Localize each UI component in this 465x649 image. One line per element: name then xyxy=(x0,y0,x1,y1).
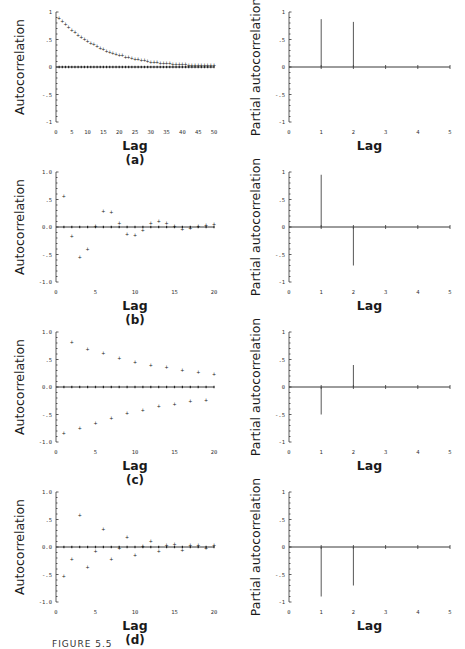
y-tick-label: 1 xyxy=(282,169,285,175)
data-point: + xyxy=(173,400,177,407)
y-axis-label: Partial autocorrelation xyxy=(248,318,263,456)
y-tick-label: .5 xyxy=(45,517,52,523)
data-point: + xyxy=(78,253,82,260)
y-tick-label: -1.0 xyxy=(39,279,52,285)
x-tick-label: 15 xyxy=(171,609,178,615)
panel-c-acf: Autocorrelation1.0.50.0-.5-1.005101520La… xyxy=(0,320,240,480)
x-axis-label: Lag xyxy=(122,298,147,313)
data-point: + xyxy=(212,541,216,548)
x-axis-label: Lag xyxy=(357,138,382,153)
data-point: + xyxy=(181,366,185,373)
data-point: + xyxy=(62,429,66,436)
x-tick-label: 45 xyxy=(195,129,202,135)
data-point: + xyxy=(188,541,192,548)
data-point: + xyxy=(212,220,216,227)
y-tick-label: 0 xyxy=(282,224,285,230)
data-point: + xyxy=(70,232,74,239)
y-axis-label: Autocorrelation xyxy=(12,339,27,435)
panel-c-pacf: Partial autocorrelation1.50-.5-1012345La… xyxy=(240,320,465,480)
x-tick-label: 15 xyxy=(171,449,178,455)
chart-b-acf: Autocorrelation1.0.50.0-.5-1.005101520La… xyxy=(0,160,240,320)
data-point: + xyxy=(117,544,121,551)
data-point: + xyxy=(86,563,90,570)
x-tick-label: 4 xyxy=(416,609,420,615)
y-tick-label: 1 xyxy=(49,9,52,15)
chart-c-acf: Autocorrelation1.0.50.0-.5-1.005101520La… xyxy=(0,320,240,480)
data-point: + xyxy=(141,406,145,413)
y-tick-label: 0 xyxy=(49,64,52,70)
y-tick-label: 1.0 xyxy=(42,169,52,175)
x-tick-label: 4 xyxy=(416,129,420,135)
y-tick-label: -1 xyxy=(278,599,285,605)
data-point: + xyxy=(70,338,74,345)
x-tick-label: 15 xyxy=(171,289,178,295)
x-tick-label: 20 xyxy=(211,289,218,295)
data-point: + xyxy=(165,219,169,226)
data-point: + xyxy=(62,572,66,579)
data-point: + xyxy=(149,537,153,544)
data-point: + xyxy=(181,546,185,553)
data-point: + xyxy=(94,419,98,426)
y-tick-label: -.5 xyxy=(42,92,52,98)
data-point: + xyxy=(133,358,137,365)
data-point: + xyxy=(188,397,192,404)
data-point: + xyxy=(78,511,82,518)
y-tick-label: -1 xyxy=(278,279,285,285)
y-axis-label: Partial autocorrelation xyxy=(248,158,263,296)
y-axis-label: Autocorrelation xyxy=(12,19,27,115)
x-tick-label: 0 xyxy=(287,449,290,455)
x-tick-label: 20 xyxy=(211,609,218,615)
data-point: + xyxy=(196,368,200,375)
data-point: + xyxy=(204,396,208,403)
x-tick-label: 2 xyxy=(352,289,355,295)
y-tick-label: -.5 xyxy=(275,412,285,418)
panel-a-pacf: Partial autocorrelation1.50-.5-1012345La… xyxy=(240,0,465,160)
x-tick-label: 4 xyxy=(416,449,420,455)
y-tick-label: 1 xyxy=(282,489,285,495)
y-tick-label: -1 xyxy=(278,439,285,445)
panel-b-pacf: Partial autocorrelation1.50-.5-1012345La… xyxy=(240,160,465,320)
y-tick-label: .5 xyxy=(45,197,52,203)
y-axis-label: Partial autocorrelation xyxy=(248,478,263,616)
x-tick-label: 2 xyxy=(352,449,355,455)
x-tick-label: 20 xyxy=(211,449,218,455)
data-point: + xyxy=(125,409,129,416)
y-tick-label: -1.0 xyxy=(39,439,52,445)
x-tick-label: 4 xyxy=(416,289,420,295)
y-tick-label: -.5 xyxy=(275,92,285,98)
panel-caption: (d) xyxy=(125,633,145,647)
x-tick-label: 3 xyxy=(384,609,387,615)
y-tick-label: -.5 xyxy=(42,252,52,258)
data-point: + xyxy=(212,370,216,377)
x-tick-label: 5 xyxy=(94,289,97,295)
data-point: + xyxy=(94,547,98,554)
x-tick-label: 30 xyxy=(147,129,154,135)
x-axis-label: Lag xyxy=(122,618,147,633)
data-point: + xyxy=(94,222,98,229)
x-tick-label: 3 xyxy=(384,449,387,455)
data-point: + xyxy=(70,555,74,562)
data-point: + xyxy=(196,222,200,229)
x-tick-label: 1 xyxy=(320,129,323,135)
chart-a-pacf: Partial autocorrelation1.50-.5-1012345La… xyxy=(240,0,465,160)
x-axis-label: Lag xyxy=(122,458,147,473)
y-tick-label: 1 xyxy=(282,9,285,15)
data-point: + xyxy=(181,225,185,232)
panel-d-acf: Autocorrelation1.0.50.0-.5-1.005101520La… xyxy=(0,480,240,645)
data-point: + xyxy=(188,224,192,231)
data-point: + xyxy=(102,349,106,356)
y-tick-label: 0.0 xyxy=(42,544,52,550)
x-axis-label: Lag xyxy=(357,298,382,313)
y-tick-label: -1 xyxy=(45,119,52,125)
x-tick-label: 10 xyxy=(84,129,91,135)
y-tick-label: 1 xyxy=(282,329,285,335)
data-point: + xyxy=(102,525,106,532)
x-tick-label: 1 xyxy=(320,289,323,295)
chart-b-pacf: Partial autocorrelation1.50-.5-1012345La… xyxy=(240,160,465,320)
x-tick-label: 0 xyxy=(54,129,57,135)
x-tick-label: 3 xyxy=(384,129,387,135)
x-tick-label: 0 xyxy=(287,129,290,135)
y-tick-label: -.5 xyxy=(275,252,285,258)
y-tick-label: -.5 xyxy=(42,572,52,578)
data-point: + xyxy=(141,542,145,549)
